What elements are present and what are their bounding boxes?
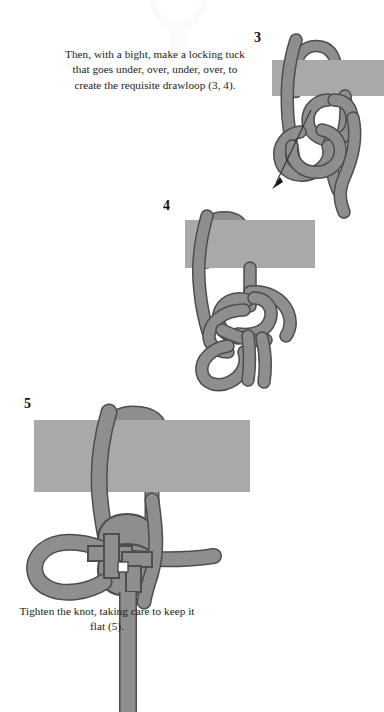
page-canvas: Then, with a bight, make a locking tuck …	[0, 0, 384, 712]
rope-front-step-4	[199, 216, 291, 385]
step-number-3: 3	[254, 30, 261, 46]
rope-behind-bar-3-fill	[295, 46, 336, 92]
caption-bottom: Tighten the knot, taking care to keep it…	[16, 604, 198, 635]
rope-front-step-5	[35, 412, 214, 712]
rope-front-step-3	[280, 40, 355, 212]
rope-over-bar-5	[105, 414, 158, 470]
bar-step-3	[272, 60, 384, 96]
direction-arrow-step-3	[272, 110, 311, 189]
bar-step-4	[185, 220, 315, 268]
step-number-4: 4	[163, 198, 170, 214]
rope-over-bar-4	[204, 218, 242, 262]
bar-step-5	[34, 420, 250, 492]
knot-weave-step-5	[88, 534, 152, 592]
rope-behind-bar-3	[295, 46, 336, 92]
ghost-figure-top	[148, 0, 208, 50]
caption-top: Then, with a bight, make a locking tuck …	[62, 47, 248, 93]
step-number-5: 5	[24, 396, 31, 412]
knot-body-step-5	[98, 514, 158, 596]
